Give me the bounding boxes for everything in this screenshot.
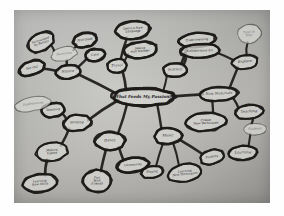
mindmap-node[interactable] xyxy=(86,49,106,62)
photo-canvas: NatureNurturingSurroundedby BeautyFeel G… xyxy=(0,0,284,216)
mindmap-node[interactable] xyxy=(107,59,127,73)
mindmap-node[interactable] xyxy=(82,169,112,192)
mindmap-edge xyxy=(123,71,127,91)
mindmap-node[interactable] xyxy=(237,24,262,43)
mindmap-node[interactable] xyxy=(243,123,267,135)
mindmap-node[interactable] xyxy=(185,112,227,131)
mindmap-node[interactable] xyxy=(168,163,202,182)
mindmap-node[interactable] xyxy=(228,146,258,161)
mindmap-node[interactable] xyxy=(55,65,80,79)
mindmap-drawing xyxy=(0,0,284,216)
mindmap-node[interactable] xyxy=(200,149,224,165)
mindmap-center-node[interactable] xyxy=(110,88,176,107)
mindmap-node[interactable] xyxy=(35,142,68,161)
mindmap-edge xyxy=(157,104,161,130)
mindmap-node[interactable] xyxy=(154,127,183,144)
mindmap-edge xyxy=(78,74,118,94)
mindmap-node[interactable] xyxy=(115,21,151,40)
mindmap-edge xyxy=(173,143,179,166)
mindmap-node[interactable] xyxy=(163,63,187,77)
mindmap-node[interactable] xyxy=(235,105,264,120)
mindmap-edge xyxy=(118,104,128,135)
mindmap-edge xyxy=(101,149,106,172)
mindmap-node[interactable] xyxy=(27,31,54,53)
mindmap-edge xyxy=(217,53,235,61)
mindmap-node[interactable] xyxy=(124,41,157,58)
mindmap-node[interactable] xyxy=(94,132,126,151)
mindmap-node[interactable] xyxy=(63,115,92,132)
mindmap-edge xyxy=(229,67,238,89)
mindmap-edge xyxy=(156,143,163,167)
mindmap-node[interactable] xyxy=(19,60,45,76)
mindmap-edge xyxy=(246,42,247,55)
node-fill xyxy=(28,32,54,53)
mindmap-node[interactable] xyxy=(22,173,58,193)
mindmap-edge xyxy=(88,100,118,120)
mindmap-node[interactable] xyxy=(72,32,96,47)
mindmap-node[interactable] xyxy=(51,46,78,61)
mindmap-node[interactable] xyxy=(231,55,258,70)
mindmap-edge xyxy=(179,139,203,154)
mindmap-node[interactable] xyxy=(180,44,221,59)
mindmap-node[interactable] xyxy=(199,87,239,102)
